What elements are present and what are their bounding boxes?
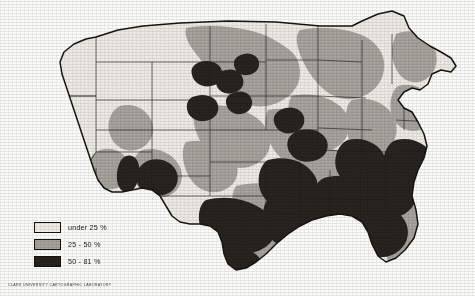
map-figure: under 25 % 25 - 50 % 50 - 81 % CLARK UNI… — [0, 0, 475, 296]
legend-item-under-25: under 25 % — [34, 221, 154, 233]
cartographer-credit: CLARK UNIVERSITY CARTOGRAPHIC LABORATORY — [8, 283, 111, 287]
legend-item-25-50: 25 - 50 % — [34, 238, 154, 250]
legend-swatch-50-81 — [34, 256, 61, 267]
legend-swatch-under-25 — [34, 222, 61, 233]
legend-label-50-81: 50 - 81 % — [68, 256, 101, 267]
legend-label-25-50: 25 - 50 % — [68, 239, 101, 250]
legend-item-50-81: 50 - 81 % — [34, 255, 154, 267]
legend-label-under-25: under 25 % — [68, 222, 107, 233]
legend-swatch-25-50 — [34, 239, 61, 250]
map-legend: under 25 % 25 - 50 % 50 - 81 % — [34, 221, 154, 267]
